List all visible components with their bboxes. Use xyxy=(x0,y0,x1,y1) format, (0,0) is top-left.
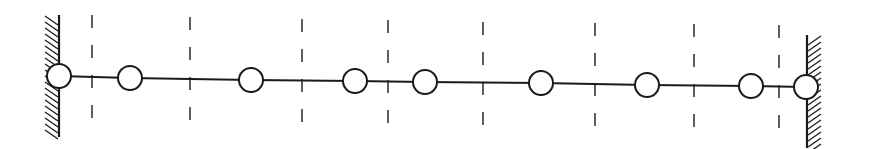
mass-2 xyxy=(239,68,263,92)
mass-7 xyxy=(739,74,763,98)
hatch-mark xyxy=(808,144,821,149)
mass-0 xyxy=(47,64,71,88)
mass-4 xyxy=(413,70,437,94)
mass-5 xyxy=(529,71,553,95)
mass-spring-chain-diagram xyxy=(0,0,871,149)
mass-8 xyxy=(794,75,818,99)
point-masses xyxy=(47,64,818,99)
mass-6 xyxy=(635,73,659,97)
mass-1 xyxy=(118,66,142,90)
mass-3 xyxy=(343,69,367,93)
